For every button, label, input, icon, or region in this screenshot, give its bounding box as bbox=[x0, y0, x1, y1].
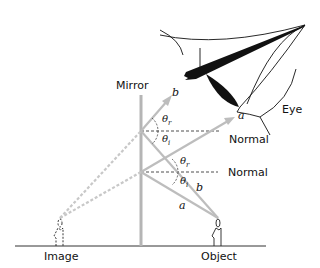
ray-a-incident-label: a bbox=[179, 200, 186, 211]
ray-b-reflected-label: b bbox=[172, 87, 179, 98]
image-figure bbox=[54, 219, 63, 246]
image-label: Image bbox=[44, 251, 78, 262]
mirror-label: Mirror bbox=[116, 80, 148, 91]
object-figure bbox=[212, 219, 221, 246]
ray-b-incident-label: b bbox=[196, 182, 203, 193]
virtual-ray-a bbox=[60, 172, 141, 218]
theta-i-lower-label: θi bbox=[180, 176, 188, 189]
normal-upper-label: Normal bbox=[229, 134, 269, 145]
theta-r-upper-label: θr bbox=[162, 114, 171, 127]
virtual-ray-b bbox=[60, 131, 141, 218]
angle-arc-lower-i bbox=[172, 172, 178, 185]
eye-label: Eye bbox=[282, 104, 302, 115]
eyelash bbox=[184, 25, 305, 80]
reflected-ray-a-arrowhead bbox=[224, 117, 235, 125]
angle-arc-upper-r bbox=[152, 118, 158, 131]
object-label: Object bbox=[201, 251, 237, 262]
normal-lower-label: Normal bbox=[228, 167, 268, 178]
theta-i-upper-label: θi bbox=[162, 134, 170, 147]
reflection-diagram bbox=[0, 0, 320, 268]
ray-a-reflected-label: a bbox=[238, 110, 245, 121]
theta-r-lower-label: θr bbox=[180, 156, 189, 169]
angle-arc-upper-i bbox=[152, 131, 158, 144]
